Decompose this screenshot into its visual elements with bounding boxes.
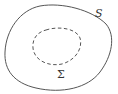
outer-curve-label: S xyxy=(95,7,103,20)
inner-curve-label: Σ xyxy=(57,68,65,81)
diagram-canvas: S Σ xyxy=(0,0,118,94)
inner-surface-curve xyxy=(33,28,81,65)
